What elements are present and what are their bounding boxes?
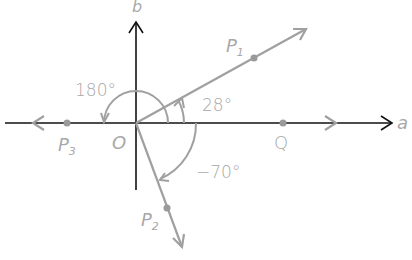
a-axis-label: a (397, 112, 408, 133)
angle-label-180: 180° (75, 80, 116, 100)
origin-label: O (112, 132, 126, 153)
p1-label: P1 (226, 35, 244, 59)
point-p3 (64, 120, 71, 127)
point-q (280, 120, 287, 127)
p3-label: P3 (58, 134, 76, 158)
b-axis-label: b (132, 0, 142, 16)
arc-minus70 (160, 123, 196, 179)
angle-label-28: 28° (202, 95, 232, 115)
point-p2 (164, 205, 171, 212)
polar-angle-diagram: b a O P1 P3 P2 Q 28° 180° −70° (0, 0, 412, 260)
q-label: Q (274, 132, 288, 153)
angle-label-minus70: −70° (196, 162, 240, 182)
rays (33, 29, 336, 247)
points (64, 55, 287, 212)
p2-label: P2 (141, 209, 159, 233)
point-p1 (251, 55, 258, 62)
